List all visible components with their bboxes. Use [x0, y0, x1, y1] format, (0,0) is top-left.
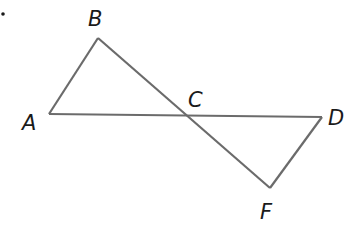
segment-bf: [98, 38, 270, 188]
segment-ab: [49, 38, 98, 114]
geometry-diagram: B A C D F: [0, 0, 356, 239]
label-a: A: [20, 111, 36, 135]
segment-df: [270, 117, 322, 188]
segment-ad: [49, 114, 322, 117]
bullet-dot: [1, 12, 5, 16]
label-d: D: [328, 106, 344, 130]
label-f: F: [260, 200, 273, 224]
label-c: C: [188, 88, 203, 112]
label-b: B: [88, 7, 102, 31]
